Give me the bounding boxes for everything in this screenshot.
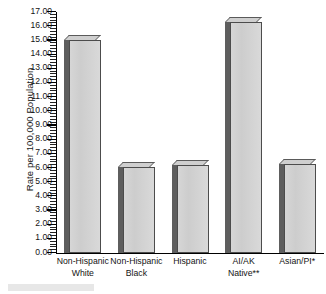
plot-area (56, 12, 324, 253)
y-tick-major (47, 238, 56, 239)
y-tick-major (47, 139, 56, 140)
y-tick-major (47, 25, 56, 26)
scan-artifact (8, 284, 94, 291)
x-category-label-line: Black (110, 268, 164, 280)
bar-front-face (284, 164, 316, 253)
y-tick-major (47, 124, 56, 125)
x-category-label-line: Native** (217, 268, 271, 280)
x-category-label: Non-HispanicWhite (56, 256, 110, 279)
y-tick-major (47, 252, 56, 253)
y-tick-major (47, 11, 56, 12)
y-tick-major (47, 224, 56, 225)
y-tick-major (47, 153, 56, 154)
y-tick-major (47, 68, 56, 69)
bar (225, 17, 262, 253)
y-axis-tick-labels: 0.001.002.003.004.005.006.007.008.009.00… (16, 0, 52, 294)
bar-front-face (230, 22, 262, 253)
x-category-label-line: White (56, 268, 110, 280)
x-category-label-line: Asian/PI* (270, 256, 324, 268)
bar-front-face (123, 167, 155, 253)
x-category-label-line: Non-Hispanic (110, 256, 164, 268)
bar (64, 35, 101, 253)
y-tick-major (47, 82, 56, 83)
x-category-label: Asian/PI* (270, 256, 324, 268)
x-category-label-line: Hispanic (163, 256, 217, 268)
x-axis-category-labels: Non-HispanicWhiteNon-HispanicBlackHispan… (56, 256, 324, 292)
bar (172, 160, 209, 253)
x-category-label: AI/AKNative** (217, 256, 271, 279)
y-tick-major (47, 209, 56, 210)
bar (118, 162, 155, 253)
y-tick-major (47, 110, 56, 111)
bar-front-face (69, 40, 101, 253)
x-category-label-line: Non-Hispanic (56, 256, 110, 268)
y-tick-major (47, 195, 56, 196)
bar (279, 159, 316, 253)
x-category-label-line: AI/AK (217, 256, 271, 268)
y-tick-major (47, 167, 56, 168)
y-tick-major (47, 96, 56, 97)
bar-chart: Rate per 100,000 Population 0.001.002.00… (0, 0, 326, 294)
x-category-label: Non-HispanicBlack (110, 256, 164, 279)
y-tick-major (47, 54, 56, 55)
bar-front-face (177, 165, 209, 253)
x-category-label: Hispanic (163, 256, 217, 268)
y-tick-major (47, 181, 56, 182)
y-tick-major (47, 39, 56, 40)
